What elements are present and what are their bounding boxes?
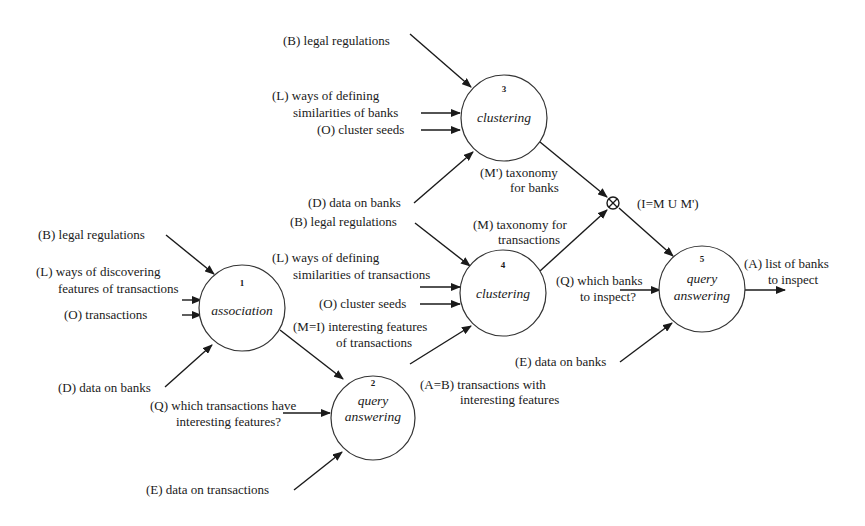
process-flow-diagram: 1 association 2 query answering 3 cluste…: [0, 0, 865, 526]
node-2-query-answering: 2 query answering: [331, 376, 415, 460]
node-number: 2: [371, 378, 376, 388]
node-5-query-answering: 5 query answering: [659, 246, 745, 332]
label-n2-query-line1: (Q) which transactions have: [150, 398, 296, 413]
label-n4-cluster-seeds: (O) cluster seeds: [319, 296, 406, 311]
label-n3-data-on-banks: (D) data on banks: [308, 195, 401, 210]
edge-n1-legal-regulations: [166, 235, 214, 274]
label-n3-output-line2: for banks: [510, 180, 559, 195]
label-n5-data-on-banks: (E) data on banks: [515, 354, 606, 369]
node-1-association: 1 association: [199, 265, 285, 351]
node-number: 5: [700, 254, 705, 264]
label-n5-query-line2: to inspect?: [580, 289, 636, 304]
node-number: 1: [240, 278, 245, 288]
node-label-line1: query: [687, 271, 718, 286]
label-n5-output-line2: to inspect: [768, 272, 819, 287]
label-n2-output-line1: (A=B) transactions with: [420, 377, 546, 392]
edge-n5-data-on-banks: [620, 323, 672, 362]
node-label: clustering: [477, 110, 531, 125]
label-n3-output-line1: (M') taxonomy: [480, 165, 558, 180]
node-label-line2: answering: [674, 288, 731, 303]
node-label-line2: answering: [345, 409, 402, 424]
label-n5-query-line1: (Q) which banks: [556, 273, 643, 288]
node-3-clustering: 3 clustering: [461, 75, 547, 161]
label-n3-ways-line1: (L) ways of defining: [272, 88, 380, 103]
label-n1-legal-regulations: (B) legal regulations: [38, 227, 145, 242]
label-n1-data-on-banks: (D) data on banks: [58, 380, 151, 395]
label-n3-cluster-seeds: (O) cluster seeds: [317, 122, 404, 137]
edge-n1-data-on-banks: [165, 345, 212, 387]
label-n1-ways-line1: (L) ways of discovering: [36, 264, 161, 279]
label-n4-legal-regulations: (B) legal regulations: [290, 214, 397, 229]
label-n5-output-line1: (A) list of banks: [744, 256, 829, 271]
label-n3-legal-regulations: (B) legal regulations: [283, 33, 390, 48]
label-n4-output-line2: transactions: [498, 232, 560, 247]
node-label: association: [211, 303, 273, 318]
label-n2-query-line2: interesting features?: [176, 414, 281, 429]
node-label: clustering: [476, 286, 530, 301]
node-label-line1: query: [358, 393, 389, 408]
node-4-clustering: 4 clustering: [460, 250, 546, 336]
label-n2-output-line2: interesting features: [460, 392, 559, 407]
edge-n3-data-on-banks: [414, 152, 473, 203]
edge-junction-to-n5: [619, 208, 673, 256]
edge-n1-to-n2: [280, 330, 343, 379]
label-n4-output-line1: (M) taxonomy for: [473, 217, 568, 232]
label-n1-output-line2: of transactions: [336, 335, 412, 350]
label-n2-data-on-transactions: (E) data on transactions: [146, 482, 269, 497]
node-number: 4: [501, 260, 506, 270]
edge-n4-legal-regulations: [415, 223, 470, 266]
label-n4-ways-line1: (L) ways of defining: [272, 250, 380, 265]
node-number: 3: [502, 84, 507, 94]
edge-n3-legal-regulations: [410, 34, 471, 87]
edge-n2-data-on-transactions: [294, 452, 342, 490]
label-n3-ways-line2: similarities of banks: [293, 105, 398, 120]
label-n4-ways-line2: similarities of transactions: [293, 267, 430, 282]
label-n1-transactions: (O) transactions: [64, 307, 147, 322]
label-n1-ways-line2: features of transactions: [58, 281, 179, 296]
label-n1-output-line1: (M=I) interesting features: [293, 319, 427, 334]
junction-label: (I=M U M'): [637, 196, 699, 211]
